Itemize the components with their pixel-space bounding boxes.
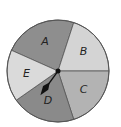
sector-label-b: B: [80, 45, 88, 58]
spinner-diagram: ABCDE: [0, 0, 121, 127]
sector-label-e: E: [23, 67, 30, 80]
spinner-pivot: [56, 69, 61, 74]
sector-label-d: D: [44, 94, 52, 107]
sector-label-c: C: [80, 83, 88, 96]
sector-label-a: A: [40, 35, 49, 48]
